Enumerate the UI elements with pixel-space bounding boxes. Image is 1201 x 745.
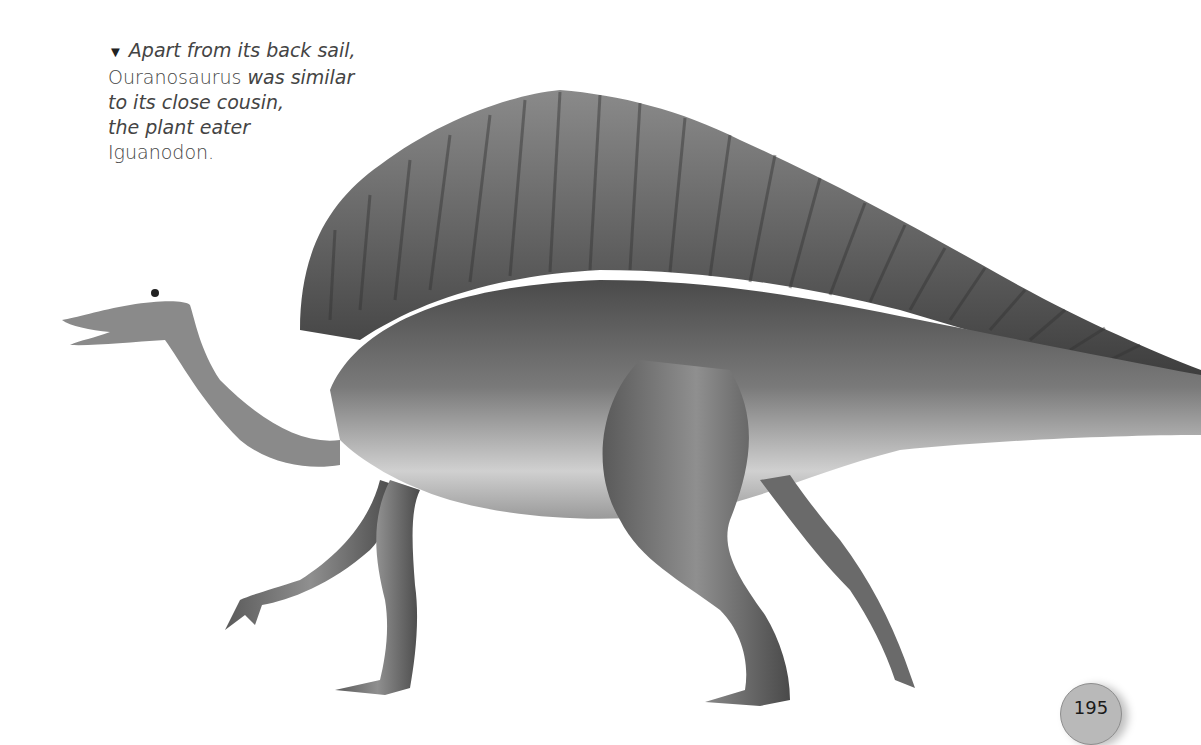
front-arm [225,480,395,630]
page-number-badge: 195 [1060,683,1122,745]
dinosaur-eye [151,289,159,297]
dinosaur-neck-head [62,301,340,466]
